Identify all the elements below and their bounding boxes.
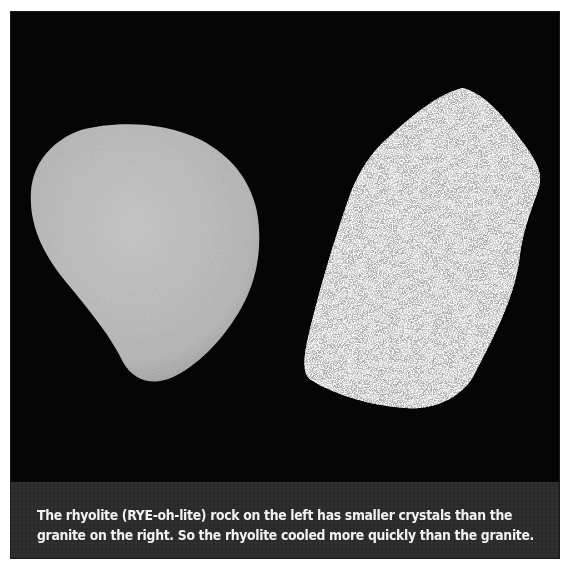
caption-bar: The rhyolite (RYE-oh-lite) rock on the l… <box>11 482 559 558</box>
caption-line-1: The rhyolite (RYE-oh-lite) rock on the l… <box>37 506 511 526</box>
figure-frame: The rhyolite (RYE-oh-lite) rock on the l… <box>11 12 559 558</box>
caption-line-2: granite on the right. So the rhyolite co… <box>37 526 511 546</box>
granite-rock <box>304 88 540 408</box>
figure-caption: The rhyolite (RYE-oh-lite) rock on the l… <box>37 506 511 546</box>
rhyolite-rock <box>31 124 259 381</box>
rock-photo <box>11 12 559 482</box>
